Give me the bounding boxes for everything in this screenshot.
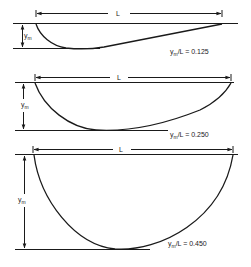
length-dimension: L (36, 10, 222, 17)
ratio-label: ym/L = 0.450 (168, 240, 207, 249)
length-label: L (119, 146, 123, 153)
depth-dimension: ym (23, 25, 38, 47)
ratio-label: ym/L = 0.250 (170, 131, 209, 140)
depth-dimension: ym (21, 84, 36, 129)
length-dimension: L (35, 74, 231, 81)
profile-diagram-0250: L ym ym/L = 0.250 (15, 74, 234, 140)
scour-profile-curve (36, 24, 222, 49)
depth-dimension: ym (18, 156, 34, 248)
profile-diagram-0125: L ym ym/L = 0.125 (13, 10, 238, 57)
scour-profile-diagrams: L ym ym/L = 0.125 L ym ym/L = 0.250 (0, 0, 251, 267)
scour-profile-curve (35, 83, 231, 130)
ratio-label: ym/L = 0.125 (170, 48, 209, 57)
profile-diagram-0450: L ym ym/L = 0.450 (15, 146, 238, 250)
scour-profile-curve (34, 155, 233, 249)
length-label: L (116, 10, 120, 17)
length-dimension: L (33, 146, 233, 153)
length-label: L (117, 74, 121, 81)
